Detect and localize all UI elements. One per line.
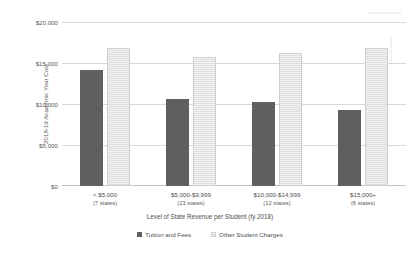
scan-artifact xyxy=(368,12,402,14)
bar-group-0 xyxy=(62,22,148,186)
x-label-0-text: < $5,000 xyxy=(93,191,117,198)
bar-tuition-0 xyxy=(80,70,103,186)
legend-swatch-icon-tuition xyxy=(137,232,142,237)
x-label-0: < $5,000 (7 states) xyxy=(62,190,148,208)
bar-chart: $20,000 $15,000 $10,000 $5,000 $0 2018-1… xyxy=(0,0,420,254)
plot-area xyxy=(62,22,406,186)
x-label-1: $5,000-$9,999 (23 states) xyxy=(148,190,234,208)
x-label-2-sub: (12 states) xyxy=(234,199,320,208)
legend-item-tuition: Tuition and Fees xyxy=(137,231,191,238)
bar-other-3 xyxy=(365,48,388,186)
x-label-2-text: $10,000-$14,999 xyxy=(254,191,301,198)
bar-tuition-2 xyxy=(252,102,275,186)
bar-tuition-3 xyxy=(338,110,361,186)
chart-legend: Tuition and Fees Other Student Charges xyxy=(0,231,420,238)
legend-swatch-icon-other xyxy=(211,232,216,237)
x-axis-title: Level of State Revenue per Student (fy 2… xyxy=(0,213,420,220)
x-axis-tick-labels: < $5,000 (7 states) $5,000-$9,999 (23 st… xyxy=(62,190,406,208)
bar-group-3 xyxy=(320,22,406,186)
bar-tuition-1 xyxy=(166,99,189,186)
bar-groups xyxy=(62,22,406,186)
y-axis-title: 2018-19 Academic Year Cost xyxy=(42,29,49,179)
x-label-3-sub: (6 states) xyxy=(320,199,406,208)
bar-other-1 xyxy=(193,57,216,186)
bar-other-2 xyxy=(279,53,302,186)
x-label-1-text: $5,000-$9,999 xyxy=(171,191,211,198)
legend-label-other: Other Student Charges xyxy=(219,231,283,238)
x-label-0-sub: (7 states) xyxy=(62,199,148,208)
x-label-3-text: $15,000+ xyxy=(350,191,376,198)
legend-label-tuition: Tuition and Fees xyxy=(145,231,191,238)
legend-item-other: Other Student Charges xyxy=(211,231,283,238)
x-label-1-sub: (23 states) xyxy=(148,199,234,208)
bar-group-1 xyxy=(148,22,234,186)
bar-group-2 xyxy=(234,22,320,186)
bar-other-0 xyxy=(107,48,130,186)
y-axis-title-wrap: 2018-19 Academic Year Cost xyxy=(14,22,28,186)
x-label-3: $15,000+ (6 states) xyxy=(320,190,406,208)
x-label-2: $10,000-$14,999 (12 states) xyxy=(234,190,320,208)
